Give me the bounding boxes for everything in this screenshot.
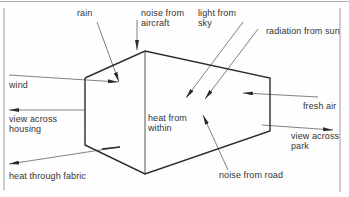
rain-arrow	[97, 22, 119, 82]
diagram-root: rain noise from aircraft light from sky …	[0, 0, 349, 197]
label-radiation-sun: radiation from sun	[266, 26, 340, 36]
label-heat-from-within: heat from within	[148, 113, 187, 133]
label-noise-road: noise from road	[219, 170, 283, 180]
noise-road-arrow	[203, 115, 228, 170]
heat-fabric-arrow-tail	[102, 147, 120, 149]
radiation-sun-arrow	[205, 29, 258, 99]
label-wind: wind	[9, 80, 28, 90]
label-rain: rain	[77, 8, 92, 18]
fresh-air-arrow	[243, 93, 318, 97]
label-noise-aircraft: noise from aircraft	[141, 8, 184, 28]
view-park-arrow	[262, 125, 333, 130]
label-view-park: view across park	[291, 131, 339, 151]
label-heat-fabric: heat through fabric	[9, 171, 86, 181]
label-fresh-air: fresh air	[303, 101, 336, 111]
label-view-housing: view across housing	[9, 114, 57, 134]
label-light-sky: light from sky	[198, 8, 236, 28]
